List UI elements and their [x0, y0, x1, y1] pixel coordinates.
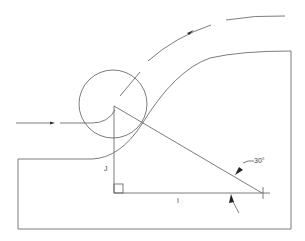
angle-arrow-bottom-icon	[229, 194, 234, 203]
triangle-hypotenuse	[114, 106, 262, 193]
angle-arrow-top-icon	[235, 167, 243, 175]
tool-path-arc	[148, 25, 211, 61]
approach-arrow-icon	[50, 122, 55, 125]
i-label: I	[177, 197, 179, 204]
tool-path-arc-2	[226, 16, 285, 20]
exit-line	[120, 72, 140, 96]
angle-label: 30°	[254, 157, 265, 164]
tool-circle	[79, 70, 147, 138]
right-angle-marker	[114, 184, 123, 193]
diagram-canvas: 30° J I	[0, 0, 305, 241]
angle-leader-top	[243, 161, 254, 163]
workpiece-profile	[18, 51, 291, 229]
j-label: J	[104, 165, 108, 172]
approach-arc	[92, 110, 115, 123]
